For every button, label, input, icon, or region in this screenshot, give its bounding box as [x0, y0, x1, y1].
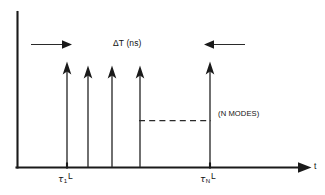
tau-symbol-N: τ [200, 174, 206, 184]
figure-container: ΔT (ns) (N MODES) τ1L τNL t [0, 0, 325, 195]
mode-stem-2 [84, 66, 93, 168]
mode-stem-3 [108, 66, 117, 168]
diagram-canvas [0, 0, 325, 195]
tau-subscript-1: 1 [64, 177, 68, 184]
tick-tau-N-L: τNL [200, 172, 216, 184]
right-span-arrow [204, 40, 245, 48]
tau-symbol-1: τ [58, 174, 64, 184]
mode-stem-5 [206, 62, 215, 168]
left-span-arrow [31, 40, 72, 48]
n-modes-label: (N MODES) [218, 110, 259, 118]
mode-stem-1 [63, 62, 72, 168]
tau-length-1: L [68, 171, 73, 181]
mode-stem-4 [136, 66, 145, 168]
tau-length-N: L [211, 171, 216, 181]
time-axis-label: t [314, 162, 316, 171]
delta-t-label: ΔT (ns) [113, 39, 141, 48]
time-axis-arrowhead [298, 162, 312, 172]
tau-subscript-N: N [206, 177, 211, 184]
tick-tau-1-L: τ1L [58, 172, 73, 184]
